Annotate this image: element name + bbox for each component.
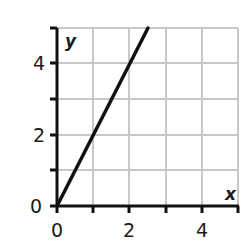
y-tick-label-4: 4 <box>33 52 45 74</box>
y-tick-label-0: 0 <box>30 195 42 217</box>
line-chart: 4 2 0 0 2 4 y x <box>0 0 247 248</box>
y-axis <box>50 28 57 207</box>
data-line <box>57 28 148 206</box>
y-tick-label-2: 2 <box>33 124 45 146</box>
x-tick-label-4: 4 <box>196 219 208 241</box>
x-axis <box>50 206 239 213</box>
x-tick-label-2: 2 <box>123 219 135 241</box>
grid <box>57 28 238 206</box>
x-tick-label-0: 0 <box>51 219 63 241</box>
y-axis-label: y <box>65 31 77 51</box>
x-axis-label: x <box>224 184 237 204</box>
